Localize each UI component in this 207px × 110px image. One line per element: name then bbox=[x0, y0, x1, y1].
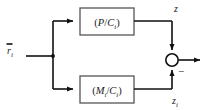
bottom-signal-sub: i bbox=[176, 101, 178, 109]
branch-node bbox=[51, 54, 55, 58]
bottom-signal-label: zi bbox=[171, 95, 178, 109]
diagram-canvas: (P/Ci) (Mi/Ci) ri z zi − bbox=[0, 0, 207, 110]
top-signal-label: z bbox=[173, 3, 178, 14]
block-bottom-close-paren: ) bbox=[118, 85, 122, 97]
junction-negative-sign: − bbox=[178, 65, 184, 77]
input-signal-sub: i bbox=[11, 51, 13, 59]
input-signal-label: ri bbox=[7, 45, 13, 59]
block-top-close-paren: ) bbox=[116, 17, 120, 29]
summing-junction[interactable] bbox=[166, 54, 178, 66]
block-diagram: (P/Ci) (Mi/Ci) ri z zi − bbox=[0, 0, 207, 110]
